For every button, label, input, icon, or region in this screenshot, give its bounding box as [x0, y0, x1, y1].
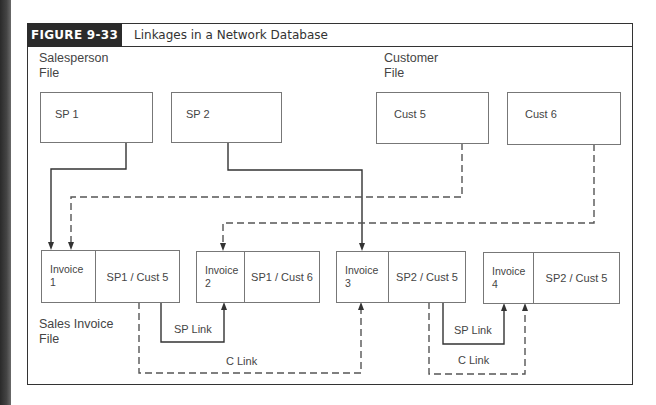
invoice-number-line: Invoice: [205, 264, 244, 277]
salesperson-record-sp2: SP 2: [171, 92, 282, 143]
invoice-number-line: 1: [50, 276, 95, 289]
invoice-number-line: Invoice: [345, 264, 388, 277]
record-label: SP 2: [186, 108, 210, 120]
invoice-linkage: SP1 / Cust 6: [245, 252, 319, 302]
sp2-to-invoice3-line: [228, 142, 362, 244]
c-link-2-label: C Link: [458, 354, 489, 366]
salesperson-record-sp1: SP 1: [40, 92, 153, 143]
invoice-linkage: SP1 / Cust 5: [96, 251, 179, 302]
invoice-number: Invoice 1: [42, 251, 96, 302]
invoice-number: Invoice 4: [484, 253, 534, 303]
customer-record-cust5: Cust 5: [376, 92, 489, 144]
sp1-to-invoice1-line: [51, 142, 126, 243]
connector-lines: [0, 0, 656, 405]
sp-link-2-label: SP Link: [454, 324, 492, 336]
invoice-number-line: 3: [345, 277, 388, 290]
invoice-record-4: Invoice 4 SP2 / Cust 5: [483, 252, 620, 304]
cust5-to-invoice1-line: [71, 143, 462, 243]
sp-link-2-line: [443, 302, 504, 344]
invoice-linkage: SP2 / Cust 5: [534, 253, 619, 303]
invoice-number-line: 2: [205, 277, 244, 290]
record-label: SP 1: [55, 108, 79, 120]
invoice-number-line: Invoice: [50, 263, 95, 276]
customer-record-cust6: Cust 6: [507, 92, 621, 145]
sp-link-1-label: SP Link: [174, 323, 212, 335]
invoice-linkage: SP2 / Cust 5: [389, 252, 465, 302]
invoice-number-line: Invoice: [492, 265, 533, 278]
record-label: Cust 5: [394, 108, 426, 120]
record-label: Cust 6: [525, 108, 557, 120]
invoice-number-line: 4: [492, 278, 533, 291]
invoice-record-2: Invoice 2 SP1 / Cust 6: [196, 251, 320, 303]
invoice-record-1: Invoice 1 SP1 / Cust 5: [41, 250, 180, 303]
invoice-record-3: Invoice 3 SP2 / Cust 5: [336, 251, 466, 303]
cust6-to-invoice2-line: [223, 144, 594, 244]
invoice-number: Invoice 3: [337, 252, 389, 302]
invoice-number: Invoice 2: [197, 252, 245, 302]
sp-link-1-line: [161, 302, 224, 342]
c-link-1-label: C Link: [226, 355, 257, 367]
